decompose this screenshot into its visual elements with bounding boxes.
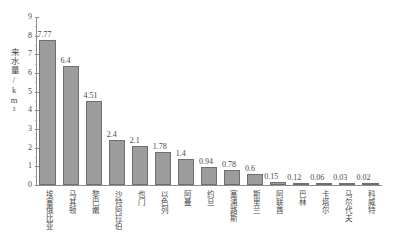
bar-卡塔尔[interactable]: 0.06: [316, 183, 332, 185]
bar-黎巴嫩[interactable]: 4.51: [86, 101, 102, 185]
y-tick-minor: [35, 176, 37, 177]
x-tick-label-也门: 也门: [135, 190, 144, 206]
bar-value-label: 7.77: [37, 31, 51, 39]
bar-rect[interactable]: [178, 159, 194, 185]
bar-阿曼[interactable]: 1.4: [178, 159, 194, 185]
y-tick-minor: [35, 120, 37, 121]
bar-也门[interactable]: 2.1: [132, 146, 148, 185]
bar-rect[interactable]: [362, 183, 378, 185]
y-tick-minor: [35, 138, 37, 139]
y-tick-label: 2: [28, 144, 32, 152]
bar-rect[interactable]: [339, 183, 355, 185]
bar-rect[interactable]: [63, 66, 79, 185]
bar-value-label: 0.6: [245, 165, 255, 173]
x-axis-line: [36, 185, 382, 186]
x-tick-label-约旦: 约旦: [205, 190, 214, 206]
y-tick-7: 7: [35, 54, 39, 55]
bar-value-label: 0.02: [356, 174, 370, 182]
plot-area: 0123456789 7.776.44.512.42.11.781.40.940…: [36, 18, 382, 186]
y-tick-label: 8: [28, 32, 32, 40]
y-tick-label: 5: [28, 88, 32, 96]
bar-chart: 来水量/km³ 0123456789 7.776.44.512.42.11.78…: [0, 0, 394, 246]
y-tick-minor: [35, 45, 37, 46]
bar-rect[interactable]: [316, 183, 332, 185]
bar-rect[interactable]: [132, 146, 148, 185]
x-tick-label-卡塔尔: 卡塔尔: [320, 190, 329, 214]
x-tick-label-以色列: 以色列: [158, 190, 167, 214]
bar-value-label: 1.78: [153, 143, 167, 151]
y-tick-6: 6: [35, 73, 39, 74]
y-tick-3: 3: [35, 129, 39, 130]
bar-value-label: 1.4: [176, 150, 186, 158]
x-tick-label-阿联酋: 阿联酋: [274, 190, 283, 214]
bar-巴林[interactable]: 0.12: [293, 183, 309, 185]
bar-value-label: 2.4: [107, 131, 117, 139]
bar-rect[interactable]: [155, 152, 171, 185]
x-tick-label-埃塞俄比亚: 埃塞俄比亚: [43, 190, 52, 230]
x-tick-label-黎巴嫩: 黎巴嫩: [89, 190, 98, 214]
y-tick-5: 5: [35, 92, 39, 93]
x-tick-label-马尔代夫: 马尔代夫: [343, 190, 352, 222]
bar-rect[interactable]: [247, 174, 263, 185]
y-tick-label: 3: [28, 125, 32, 133]
x-tick-label-斯里兰: 斯里兰: [251, 190, 260, 214]
x-tick-label-塞浦路斯: 塞浦路斯: [228, 190, 237, 222]
bar-以色列[interactable]: 1.78: [155, 152, 171, 185]
bar-rect[interactable]: [109, 140, 125, 185]
bar-value-label: 0.78: [222, 161, 236, 169]
bar-马其顿[interactable]: 6.4: [63, 66, 79, 185]
y-tick-4: 4: [35, 110, 39, 111]
x-tick-label-巴林: 巴林: [297, 190, 306, 206]
y-tick-label: 4: [28, 106, 32, 114]
bar-沙特阿拉伯[interactable]: 2.4: [109, 140, 125, 185]
y-tick-9: 9: [35, 17, 39, 18]
x-tick-label-沙特阿拉伯: 沙特阿拉伯: [112, 190, 121, 230]
y-tick-1: 1: [35, 166, 39, 167]
bar-塞浦路斯[interactable]: 0.78: [224, 170, 240, 185]
y-tick-minor: [35, 157, 37, 158]
y-tick-minor: [35, 101, 37, 102]
bar-阿联酋[interactable]: 0.15: [270, 182, 286, 185]
y-tick-2: 2: [35, 148, 39, 149]
y-axis-line: [36, 18, 37, 186]
x-tick-label-马其顿: 马其顿: [66, 190, 75, 214]
bar-value-label: 0.94: [199, 158, 213, 166]
bar-value-label: 4.51: [84, 92, 98, 100]
bar-埃塞俄比亚[interactable]: 7.77: [39, 40, 55, 185]
bar-value-label: 0.12: [287, 174, 301, 182]
bar-rect[interactable]: [270, 182, 286, 185]
y-axis-title: 来水量/km³: [4, 26, 18, 136]
x-tick-label-科威特: 科威特: [366, 190, 375, 214]
bar-value-label: 0.03: [333, 174, 347, 182]
bar-rect[interactable]: [39, 40, 55, 185]
bar-rect[interactable]: [224, 170, 240, 185]
bar-rect[interactable]: [86, 101, 102, 185]
y-tick-minor: [35, 82, 37, 83]
y-tick-label: 9: [28, 13, 32, 21]
y-tick-0: 0: [35, 185, 39, 186]
y-tick-label: 1: [28, 162, 32, 170]
bar-斯里兰[interactable]: 0.6: [247, 174, 263, 185]
bar-马尔代夫[interactable]: 0.03: [339, 183, 355, 185]
y-tick-minor: [35, 26, 37, 27]
bar-value-label: 2.1: [130, 137, 140, 145]
bar-rect[interactable]: [293, 183, 309, 185]
y-tick-label: 0: [28, 181, 32, 189]
bar-科威特[interactable]: 0.02: [362, 183, 378, 185]
bar-value-label: 6.4: [61, 57, 71, 65]
bar-rect[interactable]: [201, 167, 217, 185]
x-tick-label-阿曼: 阿曼: [181, 190, 190, 206]
bar-value-label: 0.06: [310, 174, 324, 182]
y-tick-label: 6: [28, 69, 32, 77]
y-tick-minor: [35, 64, 37, 65]
bar-约旦[interactable]: 0.94: [201, 167, 217, 185]
bar-value-label: 0.15: [264, 173, 278, 181]
y-tick-label: 7: [28, 50, 32, 58]
